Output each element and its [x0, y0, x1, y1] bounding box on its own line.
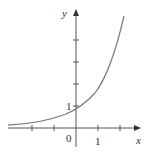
x-axis-label: x [135, 134, 141, 146]
chart: y x 0 1 1 [0, 0, 154, 154]
y-axis-label: y [61, 7, 67, 19]
x-axis-arrow-icon [134, 125, 141, 131]
y-tick-label-1: 1 [66, 100, 72, 112]
x-tick-label-1: 1 [95, 135, 101, 147]
origin-label: 0 [66, 132, 72, 144]
y-axis-arrow-icon [73, 9, 79, 16]
